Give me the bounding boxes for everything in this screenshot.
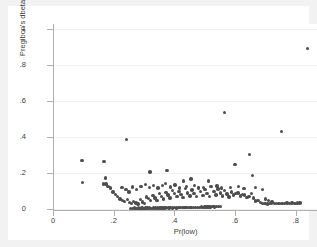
data-point	[181, 196, 184, 199]
data-point	[178, 186, 181, 189]
data-point	[270, 200, 273, 203]
plot-canvas: Pregibon's dbeta Pr(low) 0.2.4.6.810.2.4…	[8, 6, 309, 240]
gridline	[53, 137, 317, 138]
data-point	[162, 197, 165, 200]
y-tick-label: .2	[2, 169, 26, 177]
data-point	[233, 163, 236, 166]
data-point	[156, 186, 159, 189]
data-point	[143, 202, 146, 205]
data-point	[164, 182, 167, 185]
x-tick-label: .6	[225, 217, 245, 225]
data-point	[173, 183, 176, 186]
data-point	[80, 159, 83, 162]
data-point	[223, 111, 226, 114]
y-tick-label: 1	[2, 25, 26, 33]
data-point	[81, 181, 84, 184]
data-point	[195, 195, 198, 198]
data-point	[135, 188, 138, 191]
data-point	[261, 188, 264, 191]
data-point	[280, 130, 283, 133]
x-tick-label: .8	[286, 217, 306, 225]
data-point	[131, 185, 134, 188]
data-point	[155, 199, 158, 202]
data-point	[175, 195, 178, 198]
data-point	[127, 190, 130, 193]
data-point	[237, 185, 240, 188]
data-point	[298, 201, 301, 204]
y-axis-line	[53, 24, 54, 210]
data-point	[210, 185, 213, 188]
y-tick-label: .8	[2, 61, 26, 69]
data-point	[208, 195, 211, 198]
data-point	[242, 187, 245, 190]
data-point	[148, 170, 151, 173]
x-axis-line	[53, 210, 317, 211]
data-point	[165, 169, 168, 172]
data-point	[254, 186, 257, 189]
data-point	[104, 176, 107, 179]
data-point	[219, 205, 222, 208]
data-point	[229, 186, 232, 189]
data-point	[197, 186, 200, 189]
y-tick-mark	[47, 101, 53, 102]
data-point	[188, 194, 191, 197]
x-tick-label: .2	[104, 217, 124, 225]
data-point	[168, 196, 171, 199]
data-point	[139, 185, 142, 188]
data-point	[221, 194, 224, 197]
gridline	[53, 29, 317, 30]
data-point	[251, 174, 254, 177]
data-point	[207, 179, 210, 182]
data-point	[250, 192, 253, 195]
data-point	[149, 199, 152, 202]
data-point	[247, 195, 250, 198]
x-axis-title: Pr(low)	[53, 227, 317, 236]
y-tick-label: 0	[2, 205, 26, 213]
data-point	[148, 186, 151, 189]
data-point	[201, 194, 204, 197]
y-tick-label: .4	[2, 133, 26, 141]
data-point	[152, 184, 155, 187]
data-point	[214, 193, 217, 196]
gridline	[53, 173, 317, 174]
data-point	[136, 202, 139, 205]
data-point	[193, 184, 196, 187]
data-point	[189, 177, 192, 180]
x-tick-label: 0	[43, 217, 63, 225]
y-tick-mark	[47, 137, 53, 138]
data-point	[215, 184, 218, 187]
y-tick-mark	[47, 65, 53, 66]
y-tick-mark	[47, 29, 53, 30]
data-point	[199, 190, 202, 193]
y-tick-label: .6	[2, 97, 26, 105]
gridline	[53, 101, 317, 102]
x-tick-label: .4	[164, 217, 184, 225]
data-point	[144, 183, 147, 186]
y-tick-mark	[47, 173, 53, 174]
data-point	[182, 179, 185, 182]
data-point	[227, 195, 230, 198]
data-point	[185, 185, 188, 188]
gridline	[53, 65, 317, 66]
data-point	[306, 47, 309, 50]
scatter-plot-figure: Pregibon's dbeta Pr(low) 0.2.4.6.810.2.4…	[0, 0, 317, 247]
data-point	[102, 160, 105, 163]
y-tick-mark	[47, 209, 53, 210]
data-point	[125, 138, 128, 141]
plot-area	[53, 24, 317, 209]
data-point	[248, 153, 251, 156]
